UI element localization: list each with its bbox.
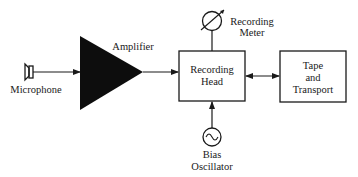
recording-meter-icon — [201, 10, 224, 31]
tape-label-line1: Tape — [303, 60, 324, 71]
tape-label-line2: and — [305, 72, 321, 83]
amplifier-label: Amplifier — [112, 41, 154, 52]
bias-oscillator-icon — [203, 128, 221, 146]
tape-label-line3: Transport — [293, 84, 334, 95]
recording-head-label-line2: Head — [201, 76, 224, 87]
meter-label-line1: Recording — [230, 16, 274, 27]
microphone-icon — [25, 64, 33, 80]
bias-label-line1: Bias — [203, 149, 222, 160]
microphone-label: Microphone — [10, 84, 62, 95]
meter-label-line2: Meter — [239, 27, 265, 38]
recording-block-diagram: Microphone Amplifier Recording Head Reco… — [0, 0, 358, 177]
bias-label-line2: Oscillator — [191, 161, 233, 172]
recording-head-label-line1: Recording — [190, 64, 234, 75]
